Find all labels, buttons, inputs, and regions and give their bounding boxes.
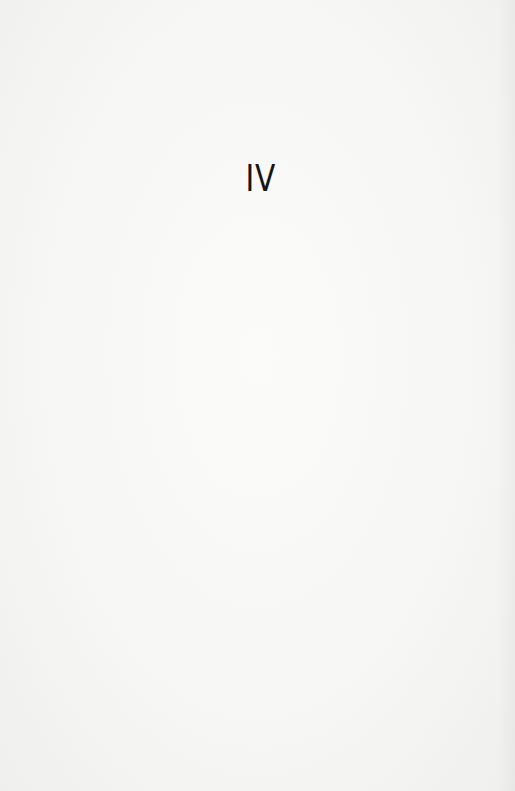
part-number-heading: IV <box>60 156 462 200</box>
book-page: IV <box>0 0 515 791</box>
